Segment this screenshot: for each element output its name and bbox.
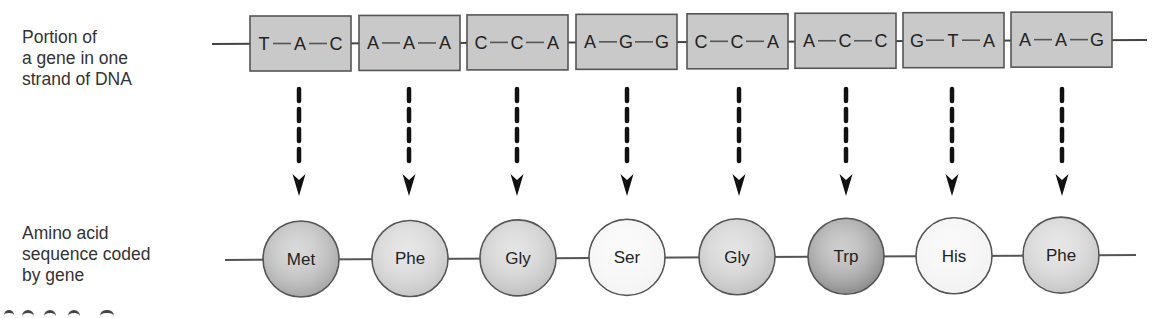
amino-acid-label: Trp <box>834 247 859 266</box>
amino-acid-phe: Phe <box>1023 217 1099 293</box>
amino-acid-phe: Phe <box>372 220 448 296</box>
dashed-arrow-icon <box>840 89 853 196</box>
nucleotide-base: A <box>767 32 779 52</box>
nucleotide-base: G <box>619 32 633 52</box>
nucleotide-base: C <box>875 31 888 51</box>
amino-acid-label: Gly <box>724 248 750 267</box>
nucleotide-base: A <box>803 31 815 51</box>
codon-box: CCA <box>687 14 788 69</box>
codon-box: AAA <box>359 15 460 70</box>
amino-acid-his: His <box>916 218 992 294</box>
nucleotide-base: G <box>655 32 669 52</box>
dashed-arrow-icon <box>403 89 416 196</box>
nucleotide-base: T <box>948 31 959 51</box>
codon-box: GTA <box>903 13 1004 68</box>
amino-acid-ser: Ser <box>589 219 665 295</box>
amino-acid-trp: Trp <box>808 218 884 294</box>
amino-acid-label: Ser <box>614 248 641 267</box>
amino-acid-label: His <box>942 247 967 266</box>
nucleotide-base: A <box>584 32 596 52</box>
nucleotide-base: A <box>1055 30 1067 50</box>
amino-acid-gly: Gly <box>699 219 775 295</box>
dashed-arrow-icon <box>293 89 306 196</box>
cropped-caption-fragment <box>0 308 160 318</box>
nucleotide-base: C <box>511 33 524 53</box>
nucleotide-base: A <box>294 34 306 54</box>
amino-acid-label: Phe <box>395 249 425 268</box>
nucleotide-base: A <box>439 33 451 53</box>
dashed-arrow-icon <box>946 89 959 196</box>
nucleotide-base: C <box>695 32 708 52</box>
translation-arrows <box>293 89 1069 196</box>
nucleotide-base: C <box>475 33 488 53</box>
codon-box: CCA <box>467 15 568 70</box>
codon-box: TAC <box>250 16 351 71</box>
codon-box: AAG <box>1011 12 1112 67</box>
amino-acid-chain-line <box>225 255 1136 260</box>
codon-box: AGG <box>576 14 677 69</box>
nucleotide-base: C <box>330 34 343 54</box>
nucleotide-base: T <box>259 34 270 54</box>
nucleotide-base: A <box>1019 30 1031 50</box>
amino-acid-gly: Gly <box>480 220 556 296</box>
nucleotide-base: C <box>731 32 744 52</box>
nucleotide-base: G <box>910 31 924 51</box>
amino-acid-label: Phe <box>1046 246 1076 265</box>
dashed-arrow-icon <box>511 89 524 196</box>
amino-acid-label: Gly <box>505 249 531 268</box>
nucleotide-base: A <box>403 33 415 53</box>
nucleotide-base: A <box>367 33 379 53</box>
amino-acid-label: Met <box>287 250 316 269</box>
dashed-arrow-icon <box>621 89 634 196</box>
dna-strand-line <box>212 40 1147 44</box>
codon-box: ACC <box>795 13 896 68</box>
gene-to-protein-diagram: TACAAACCAAGGCCAACCGTAAAG MetPheGlySerGly… <box>0 0 1156 318</box>
nucleotide-base: C <box>839 31 852 51</box>
nucleotide-base: G <box>1090 30 1104 50</box>
nucleotide-base: A <box>983 31 995 51</box>
nucleotide-base: A <box>547 33 559 53</box>
dashed-arrow-icon <box>1056 89 1069 196</box>
amino-acid-met: Met <box>263 221 339 297</box>
dashed-arrow-icon <box>733 89 746 196</box>
